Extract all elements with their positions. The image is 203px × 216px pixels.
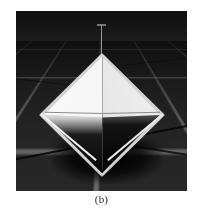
lower-vertical-edge [102,115,103,170]
figure-container: (b) [0,0,203,216]
figure-caption: (b) [0,193,203,205]
upper-vertical-edge [102,57,103,118]
render-panel [16,11,187,191]
octahedron-solid [39,53,165,177]
